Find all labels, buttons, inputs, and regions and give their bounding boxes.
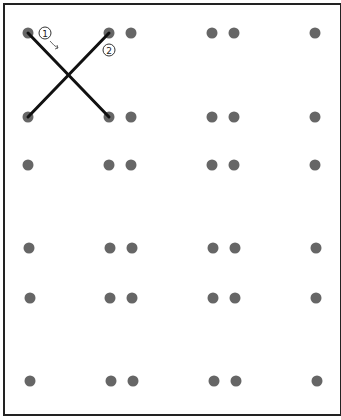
grid-dot bbox=[209, 376, 220, 387]
grid-dot bbox=[230, 243, 241, 254]
grid-dot bbox=[23, 160, 34, 171]
grid-dot bbox=[126, 160, 137, 171]
grid-dot bbox=[229, 28, 240, 39]
grid-dot bbox=[106, 376, 117, 387]
arrow-icon bbox=[50, 41, 58, 48]
grid-dot bbox=[126, 28, 137, 39]
grid-dot bbox=[311, 243, 322, 254]
grid-dot bbox=[312, 376, 323, 387]
grid-dot bbox=[128, 376, 139, 387]
grid-dot bbox=[25, 293, 36, 304]
grid-dot bbox=[104, 160, 115, 171]
grid-dot bbox=[311, 293, 322, 304]
dot-grid-diagram: 12 bbox=[0, 0, 341, 420]
annotation-label-1: 1 bbox=[42, 29, 48, 39]
grid-dot bbox=[207, 160, 218, 171]
grid-dot bbox=[230, 293, 241, 304]
grid-dot bbox=[310, 28, 321, 39]
grid-dot bbox=[208, 243, 219, 254]
grid-dot bbox=[207, 112, 218, 123]
grid-dot bbox=[231, 376, 242, 387]
grid-dot bbox=[229, 160, 240, 171]
annotation-label-2: 2 bbox=[106, 46, 112, 56]
grid-dot bbox=[25, 376, 36, 387]
grid-dot bbox=[207, 28, 218, 39]
grid-dot bbox=[105, 293, 116, 304]
grid-dot bbox=[126, 112, 137, 123]
grid-dot bbox=[127, 243, 138, 254]
grid-dot bbox=[208, 293, 219, 304]
grid-dot bbox=[310, 112, 321, 123]
grid-dot bbox=[310, 160, 321, 171]
grid-dot bbox=[105, 243, 116, 254]
grid-dot bbox=[24, 243, 35, 254]
grid-dot bbox=[127, 293, 138, 304]
grid-dot bbox=[229, 112, 240, 123]
